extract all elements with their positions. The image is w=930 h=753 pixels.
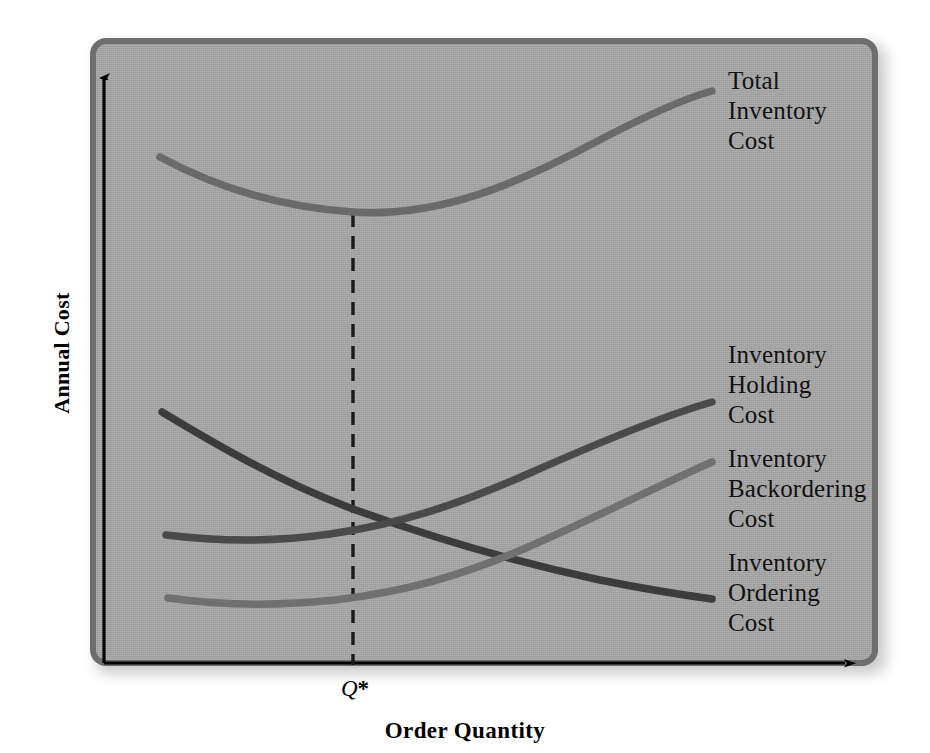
curve-label-inventory-backordering-cost: Inventory Backordering Cost	[728, 444, 866, 534]
curve-total-inventory-cost	[160, 91, 712, 213]
chart-figure: Total Inventory Cost Inventory Holding C…	[0, 0, 930, 753]
optimum-symbol: Q	[341, 676, 358, 701]
x-axis-title: Order Quantity	[0, 718, 930, 744]
optimum-star-glyph: *	[358, 676, 370, 701]
y-axis-title: Annual Cost	[49, 253, 75, 453]
curve-label-inventory-ordering-cost: Inventory Ordering Cost	[728, 548, 827, 638]
curve-inventory-holding-cost	[166, 402, 712, 540]
curve-label-total-inventory-cost: Total Inventory Cost	[728, 66, 827, 156]
optimum-order-quantity-label: Q*	[310, 676, 400, 702]
curve-label-inventory-holding-cost: Inventory Holding Cost	[728, 340, 827, 430]
